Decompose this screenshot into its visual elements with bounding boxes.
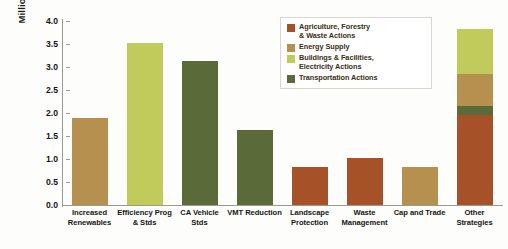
x-axis-labels: IncreasedRenewablesEfficiency Prog& Stds… [62, 208, 502, 246]
bar-efficiency-prog-stds[interactable] [127, 43, 163, 205]
bar-waste-management[interactable] [347, 158, 383, 205]
bar-segment [347, 158, 383, 205]
legend-item-label-line: Transportation Actions [299, 74, 378, 83]
legend-item[interactable]: Buildings & Facilities,Electricity Actio… [287, 54, 426, 71]
bar-vmt-reduction[interactable] [237, 130, 273, 205]
x-axis-label-line: Stds [167, 218, 233, 228]
y-axis-tick-label: 2.0 [12, 108, 58, 118]
legend-color-swatch [287, 24, 295, 32]
chart-legend: Agriculture, Forestry& Waste ActionsEner… [280, 17, 432, 89]
x-axis-line [62, 205, 503, 206]
y-axis-tick-label: 1.5 [12, 131, 58, 141]
legend-color-swatch [287, 75, 295, 83]
legend-item[interactable]: Energy Supply [287, 43, 426, 52]
bar-segment [457, 29, 493, 74]
x-axis-label-line: Management [332, 218, 398, 228]
bar-segment [457, 106, 493, 115]
bar-landscape-protection[interactable] [292, 167, 328, 205]
bar-segment [402, 167, 438, 205]
y-axis-ticks: 0.00.51.01.52.02.53.03.54.0 [8, 0, 58, 249]
bar-ca-vehicle-stds[interactable] [182, 61, 218, 205]
y-axis-tick-label: 3.0 [12, 62, 58, 72]
bar-segment [72, 118, 108, 205]
bar-segment [127, 43, 163, 205]
bar-segment [457, 115, 493, 205]
bar-segment [237, 130, 273, 205]
bar-other-strategies[interactable] [457, 29, 493, 205]
legend-item-label: Agriculture, Forestry& Waste Actions [299, 23, 370, 40]
legend-color-swatch [287, 55, 295, 63]
bar-segment [182, 61, 218, 205]
bar-cap-and-trade[interactable] [402, 167, 438, 205]
emissions-reduction-bar-chart: Million Metric Tons CO2e 0.00.51.01.52.0… [0, 0, 508, 249]
legend-item-label: Transportation Actions [299, 74, 378, 83]
y-axis-tick-label: 4.0 [12, 16, 58, 26]
x-axis-label-line: Strategies [442, 218, 508, 228]
legend-item-label-line: Energy Supply [299, 43, 349, 52]
y-axis-tick-label: 1.0 [12, 154, 58, 164]
legend-item-label-line: & Waste Actions [299, 32, 370, 41]
bar-increased-renewables[interactable] [72, 118, 108, 205]
legend-item[interactable]: Transportation Actions [287, 74, 426, 83]
x-axis-label-line: Other [442, 208, 508, 218]
y-axis-tick-label: 0.0 [12, 200, 58, 210]
y-axis-tick-label: 0.5 [12, 177, 58, 187]
bar-segment [292, 167, 328, 205]
legend-color-swatch [287, 44, 295, 52]
x-axis-label: OtherStrategies [442, 208, 508, 227]
y-axis-tick-label: 3.5 [12, 39, 58, 49]
legend-item-label: Energy Supply [299, 43, 349, 52]
bar-segment [457, 74, 493, 106]
legend-item[interactable]: Agriculture, Forestry& Waste Actions [287, 23, 426, 40]
y-axis-tick-mark [66, 205, 70, 206]
legend-item-label: Buildings & Facilities,Electricity Actio… [299, 54, 374, 71]
legend-item-label-line: Electricity Actions [299, 63, 374, 72]
y-axis-tick-label: 2.5 [12, 85, 58, 95]
